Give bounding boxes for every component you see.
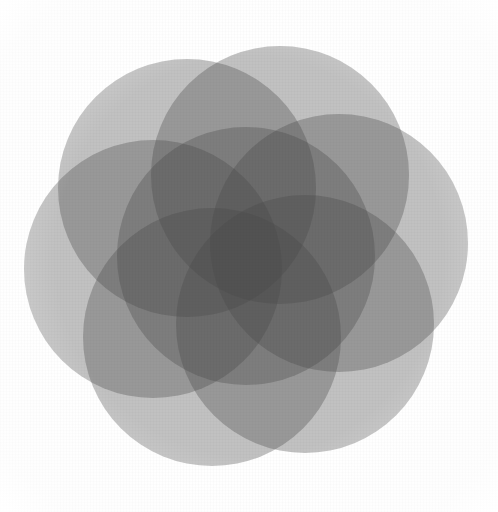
artwork-canvas: Seven overlapping translucent gray circl… <box>0 0 498 512</box>
seed-of-life-figure: Seven overlapping translucent gray circl… <box>0 0 498 512</box>
circle-group <box>24 46 468 466</box>
circle-6 <box>151 46 409 304</box>
